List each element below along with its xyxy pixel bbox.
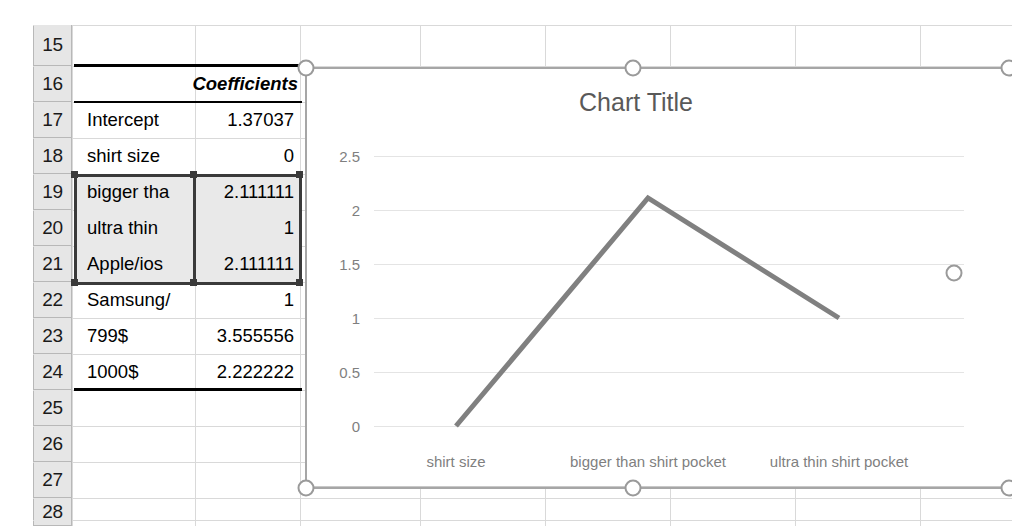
cell-B19-value[interactable]: 2.111111 — [196, 174, 300, 210]
data-series-line[interactable] — [456, 198, 839, 426]
cell-text: 0 — [284, 145, 294, 167]
x-axis-label-0: shirt size — [426, 453, 485, 470]
resize-handle-middle-right[interactable] — [946, 265, 963, 282]
chart-plot-area[interactable] — [306, 68, 1012, 488]
row-header-15[interactable]: 15 — [34, 25, 72, 66]
resize-handle-bottom-center[interactable] — [625, 480, 642, 497]
grid-line-horizontal — [33, 520, 1012, 521]
chart-frame-left — [305, 68, 307, 488]
row-header-19[interactable]: 19 — [34, 174, 72, 210]
chart-frame-top — [306, 67, 1012, 69]
resize-handle-bottom-left[interactable] — [298, 480, 315, 497]
cell-B16-coefficients-header[interactable]: Coefficients — [83, 66, 300, 102]
selection-handle[interactable] — [190, 171, 197, 178]
cell-A20-ultra-thin[interactable]: ultra thin — [83, 210, 193, 246]
row-header-26[interactable]: 26 — [34, 426, 72, 462]
row-header-22[interactable]: 22 — [34, 282, 72, 318]
cell-text: 1.37037 — [227, 109, 294, 131]
row-header-23[interactable]: 23 — [34, 318, 72, 354]
selection-border-right — [299, 174, 302, 284]
cell-text: Samsung/ — [87, 289, 170, 311]
selection-border-left — [74, 174, 77, 284]
cell-A18-shirt-size[interactable]: shirt size — [83, 138, 193, 174]
selection-border-middle — [193, 174, 196, 284]
selection-handle[interactable] — [71, 171, 78, 178]
grid-line-vertical — [72, 25, 73, 526]
row-header-24[interactable]: 24 — [34, 354, 72, 390]
cell-A23-799[interactable]: 799$ — [83, 318, 193, 354]
x-axis-label-1: bigger than shirt pocket — [570, 453, 726, 470]
row-header-label: 15 — [42, 34, 63, 56]
cell-A17-intercept[interactable]: Intercept — [83, 102, 193, 138]
cell-A24-1000[interactable]: 1000$ — [83, 354, 193, 390]
cell-text: ultra thin — [87, 217, 158, 239]
row-header-label: 23 — [42, 325, 63, 347]
row-header-label: 21 — [42, 253, 63, 275]
row-header-label: 22 — [42, 289, 63, 311]
cell-B22-value[interactable]: 1 — [196, 282, 300, 318]
resize-handle-top-center[interactable] — [625, 60, 642, 77]
row-header-label: 20 — [42, 217, 63, 239]
selection-border-top — [74, 174, 302, 177]
cell-text: 2.111111 — [224, 181, 294, 203]
row-header-27[interactable]: 27 — [34, 462, 72, 498]
grid-line-horizontal — [33, 498, 1012, 499]
x-axis-label-2: ultra thin shirt pocket — [770, 453, 908, 470]
grid-line-horizontal — [33, 25, 1012, 26]
cell-A21-apple-ios[interactable]: Apple/ios — [83, 246, 193, 282]
selection-handle[interactable] — [296, 279, 303, 286]
row-header-label: 17 — [42, 109, 63, 131]
row-header-label: 27 — [42, 469, 63, 491]
cell-A19-bigger-than[interactable]: bigger tha — [83, 174, 193, 210]
cell-text: Intercept — [87, 109, 159, 131]
resize-handle-bottom-right[interactable] — [1001, 480, 1012, 497]
row-header-label: 19 — [42, 181, 63, 203]
row-header-label: 26 — [42, 433, 63, 455]
resize-handle-top-right[interactable] — [1001, 60, 1012, 77]
cell-text: Coefficients — [192, 73, 298, 95]
cell-text: 2.111111 — [224, 253, 294, 275]
row-header-25[interactable]: 25 — [34, 390, 72, 426]
cell-B18-value[interactable]: 0 — [196, 138, 300, 174]
cell-A22-samsung[interactable]: Samsung/ — [83, 282, 193, 318]
cell-text: 1 — [284, 217, 294, 239]
cell-B24-value[interactable]: 2.222222 — [196, 354, 300, 390]
cell-text: 2.222222 — [217, 361, 294, 383]
cell-B23-value[interactable]: 3.555556 — [196, 318, 300, 354]
cell-text: bigger tha — [87, 181, 169, 203]
cell-text: 1 — [284, 289, 294, 311]
resize-handle-top-left[interactable] — [298, 60, 315, 77]
chart-object[interactable]: Chart Title 2.5 2 1.5 1 0.5 0 shirt size… — [305, 67, 1012, 487]
row-header-18[interactable]: 18 — [34, 138, 72, 174]
chart-frame-bottom — [306, 487, 1012, 489]
cell-text: 3.555556 — [217, 325, 294, 347]
cell-text: shirt size — [87, 145, 160, 167]
cell-text: Apple/ios — [87, 253, 163, 275]
row-header-28[interactable]: 28 — [34, 498, 72, 526]
row-header-label: 25 — [42, 397, 63, 419]
row-header-label: 16 — [42, 73, 63, 95]
row-header-20[interactable]: 20 — [34, 210, 72, 246]
selection-border-bottom — [74, 282, 302, 285]
row-header-label: 18 — [42, 145, 63, 167]
cell-text: 799$ — [87, 325, 128, 347]
cell-text: 1000$ — [87, 361, 138, 383]
cell-B21-value[interactable]: 2.111111 — [196, 246, 300, 282]
row-header-21[interactable]: 21 — [34, 246, 72, 282]
selection-handle[interactable] — [296, 171, 303, 178]
row-header-16[interactable]: 16 — [34, 66, 72, 102]
cell-B17-value[interactable]: 1.37037 — [196, 102, 300, 138]
row-header-label: 28 — [42, 501, 63, 523]
row-header-label: 24 — [42, 361, 63, 383]
cell-B20-value[interactable]: 1 — [196, 210, 300, 246]
row-header-17[interactable]: 17 — [34, 102, 72, 138]
selection-handle[interactable] — [190, 279, 197, 286]
selection-handle[interactable] — [71, 279, 78, 286]
